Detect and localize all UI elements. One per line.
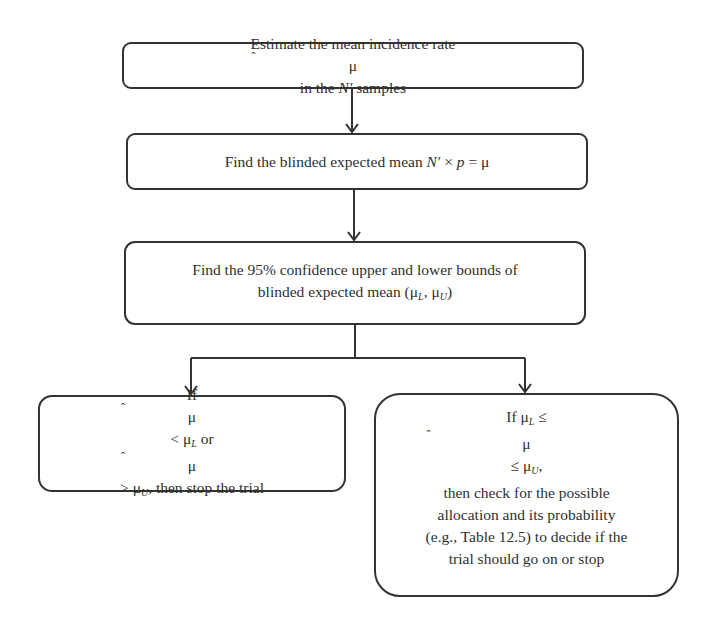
n-prime-symbol: N′	[427, 153, 441, 170]
mu-hat-symbol: μ	[120, 406, 264, 428]
text-part: = μ	[465, 153, 490, 170]
step-blinded-mean-text: Find the blinded expected mean N′ × p = …	[225, 151, 490, 173]
step-estimate-mean-box: Estimate the mean incidence rate μ in th…	[122, 42, 584, 89]
mu-hat-symbol: μ	[426, 433, 628, 455]
text-part: blinded expected mean (μ	[258, 283, 418, 300]
text-part: ,	[539, 457, 543, 474]
text-part: > μ	[120, 479, 141, 496]
text-part: Find the blinded expected mean	[225, 153, 427, 170]
stop-trial-text: If μ < μL or μ > μU, then stop the trial	[120, 384, 264, 504]
subscript-u: U	[531, 465, 538, 476]
text-part: , μ	[424, 283, 440, 300]
step-blinded-mean-box: Find the blinded expected mean N′ × p = …	[126, 133, 588, 190]
mu-hat-symbol: μ	[251, 55, 456, 77]
text-part: If μ	[506, 408, 529, 425]
check-allocation-box: If μL ≤ μ ≤ μU, then check for the possi…	[374, 393, 679, 597]
text-line: trial should go on or stop	[426, 548, 628, 570]
stop-trial-box: If μ < μL or μ > μU, then stop the trial	[38, 395, 346, 492]
text-line: Find the 95% confidence upper and lower …	[192, 259, 517, 281]
text-line: allocation and its probability	[426, 504, 628, 526]
text-part: < μ	[170, 430, 191, 447]
step-confidence-bounds-box: Find the 95% confidence upper and lower …	[124, 241, 586, 325]
text-part: in the	[300, 79, 339, 96]
text-part: ≤	[534, 408, 546, 425]
times-symbol: ×	[440, 153, 457, 170]
text-part: If	[187, 386, 197, 403]
text-part: Estimate the mean incidence rate	[251, 35, 456, 52]
mu-hat-symbol: μ	[120, 455, 264, 477]
text-part: , then stop the trial	[148, 479, 264, 496]
check-allocation-text: If μL ≤ μ ≤ μU, then check for the possi…	[426, 406, 628, 570]
text-part: samples	[352, 79, 406, 96]
p-symbol: p	[457, 153, 465, 170]
step-confidence-bounds-text: Find the 95% confidence upper and lower …	[192, 259, 517, 308]
text-line: (e.g., Table 12.5) to decide if the	[426, 526, 628, 548]
n-prime-symbol: N′	[339, 79, 353, 96]
text-part: ≤ μ	[511, 457, 532, 474]
text-part: or	[197, 430, 214, 447]
subscript-u: U	[440, 291, 447, 302]
text-part: )	[447, 283, 452, 300]
step-estimate-mean-text: Estimate the mean incidence rate μ in th…	[251, 33, 456, 99]
text-line: If μL ≤ μ ≤ μU,	[426, 406, 628, 482]
text-line: blinded expected mean (μL, μU)	[192, 281, 517, 308]
text-line: then check for the possible	[426, 482, 628, 504]
